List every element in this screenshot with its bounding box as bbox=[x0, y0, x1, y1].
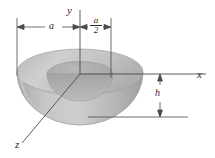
y-axis-label: y bbox=[67, 5, 72, 16]
arrowhead-h-bottom bbox=[158, 110, 163, 117]
inner-radius-numerator: a bbox=[90, 16, 102, 25]
engineering-figure: y x z a a 2 h bbox=[0, 0, 215, 158]
depth-label: h bbox=[155, 88, 160, 98]
outer-radius-label: a bbox=[49, 21, 54, 31]
figure-drawing bbox=[0, 0, 215, 158]
inner-radius-denominator: 2 bbox=[90, 26, 102, 35]
arrowhead-a-left bbox=[17, 24, 24, 29]
x-axis-label: x bbox=[197, 69, 202, 80]
z-axis-label: z bbox=[15, 139, 19, 150]
inner-radius-label: a 2 bbox=[90, 16, 102, 36]
arrowhead-ahalf-right bbox=[104, 24, 111, 29]
arrowhead-ahalf-left bbox=[80, 24, 87, 29]
arrowhead-h-top bbox=[158, 74, 163, 81]
